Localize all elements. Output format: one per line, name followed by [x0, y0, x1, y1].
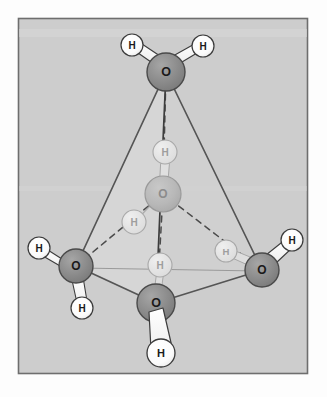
left-hydrogen-upper[interactable] [28, 237, 50, 259]
left-oxygen[interactable] [59, 249, 93, 283]
central-hydrogen-left[interactable] [122, 210, 146, 234]
central-hydrogen-up[interactable] [153, 140, 177, 164]
central-oxygen[interactable] [145, 176, 181, 212]
molecular-diagram-figure: H H O H H H [0, 0, 327, 397]
right-hydrogen-upper[interactable] [281, 229, 303, 251]
top-hydrogen-left[interactable] [121, 34, 143, 56]
bottom-hydrogen-back[interactable] [148, 253, 172, 277]
left-hydrogen-lower[interactable] [71, 297, 93, 319]
top-oxygen[interactable] [147, 53, 185, 91]
top-hydrogen-right[interactable] [192, 35, 214, 57]
molecule-canvas: H H O H H H [0, 0, 327, 397]
scan-band-top [19, 29, 307, 37]
right-hydrogen-back[interactable] [215, 240, 237, 262]
bottom-hydrogen-front[interactable] [147, 339, 175, 367]
right-oxygen[interactable] [245, 253, 279, 287]
